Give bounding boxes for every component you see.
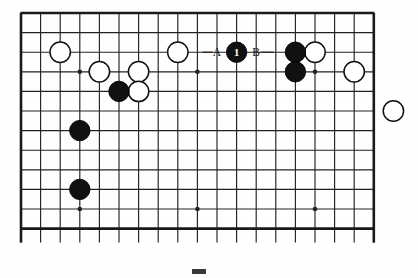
caption-mark xyxy=(192,269,206,274)
stone-disc xyxy=(285,62,305,82)
star-point xyxy=(195,207,200,212)
star-point xyxy=(78,70,83,75)
stone-disc xyxy=(305,42,325,62)
star-point xyxy=(195,70,200,75)
star-point xyxy=(313,70,318,75)
stone-disc xyxy=(168,42,188,62)
white-stone[interactable] xyxy=(50,42,70,62)
numbered-move-stone[interactable]: 1 xyxy=(226,42,246,62)
star-point xyxy=(313,207,318,212)
stone-disc xyxy=(344,62,364,82)
point-label-b: B xyxy=(252,46,260,58)
move-number-label: 1 xyxy=(234,47,239,58)
white-stone[interactable] xyxy=(305,42,325,62)
stone-disc xyxy=(50,42,70,62)
point-label-a: A xyxy=(213,46,222,58)
black-stone[interactable] xyxy=(70,120,90,140)
stone-disc xyxy=(383,101,403,121)
stone-disc xyxy=(70,120,90,140)
stone-disc xyxy=(109,81,129,101)
white-stone[interactable] xyxy=(89,62,109,82)
star-point xyxy=(78,207,83,212)
white-stone[interactable] xyxy=(128,62,148,82)
white-stone[interactable] xyxy=(128,81,148,101)
black-stone[interactable] xyxy=(285,62,305,82)
go-board[interactable]: 1 AB xyxy=(0,0,418,278)
stone-disc xyxy=(285,42,305,62)
stone-disc xyxy=(128,81,148,101)
white-stone[interactable] xyxy=(168,42,188,62)
black-stone[interactable] xyxy=(285,42,305,62)
black-stone[interactable] xyxy=(70,179,90,199)
stone-disc xyxy=(128,62,148,82)
black-stone[interactable] xyxy=(109,81,129,101)
white-stone[interactable] xyxy=(344,62,364,82)
stone-disc xyxy=(70,179,90,199)
white-stone[interactable] xyxy=(383,101,403,121)
go-diagram-figure: 1 AB xyxy=(0,0,418,278)
stone-disc xyxy=(89,62,109,82)
